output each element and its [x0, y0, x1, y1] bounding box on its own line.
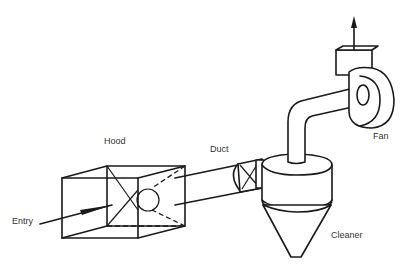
entry-arrow — [40, 205, 112, 224]
diagram-drawing — [0, 0, 403, 269]
ventilation-diagram: Hood Duct Fan Entry Cleaner — [0, 0, 403, 269]
duct — [175, 159, 264, 205]
exhaust-arrow-icon — [351, 16, 357, 28]
cleaner-label: Cleaner — [331, 230, 363, 240]
fan-label: Fan — [373, 131, 389, 141]
hood — [62, 166, 185, 238]
cleaner-cyclone — [262, 154, 332, 257]
duct-label: Duct — [210, 144, 229, 154]
fan — [336, 16, 394, 128]
hood-label: Hood — [104, 136, 126, 146]
entry-label: Entry — [12, 216, 33, 226]
